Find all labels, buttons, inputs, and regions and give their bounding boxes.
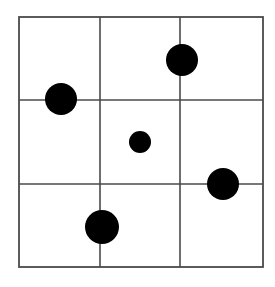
dot-grid-diagram xyxy=(0,0,275,287)
dot-bottom-center xyxy=(85,210,119,244)
figure-canvas xyxy=(0,0,275,287)
dot-mid-left xyxy=(45,83,77,115)
dot-top-right xyxy=(166,44,198,76)
dot-mid-right xyxy=(207,168,239,200)
dot-center-small xyxy=(129,131,151,153)
